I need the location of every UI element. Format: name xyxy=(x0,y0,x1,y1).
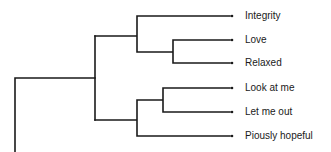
leaf-dot xyxy=(231,15,234,18)
leaf-label-relaxed: Relaxed xyxy=(245,57,282,69)
leaf-label-love: Love xyxy=(245,34,267,46)
leaf-dot xyxy=(231,62,234,65)
upper-cluster xyxy=(95,16,230,63)
leaf-dot xyxy=(231,135,234,138)
leaf-dot xyxy=(231,111,234,114)
leaf-dot xyxy=(231,39,234,42)
leaf-label-look-at-me: Look at me xyxy=(245,82,294,94)
leaf-label-integrity: Integrity xyxy=(245,10,281,22)
root-branch xyxy=(15,78,95,152)
leaf-dot xyxy=(231,87,234,90)
lower-cluster xyxy=(95,88,230,136)
leaf-label-piously-hopeful: Piously hopeful xyxy=(245,130,313,142)
leaf-label-let-me-out: Let me out xyxy=(245,106,292,118)
